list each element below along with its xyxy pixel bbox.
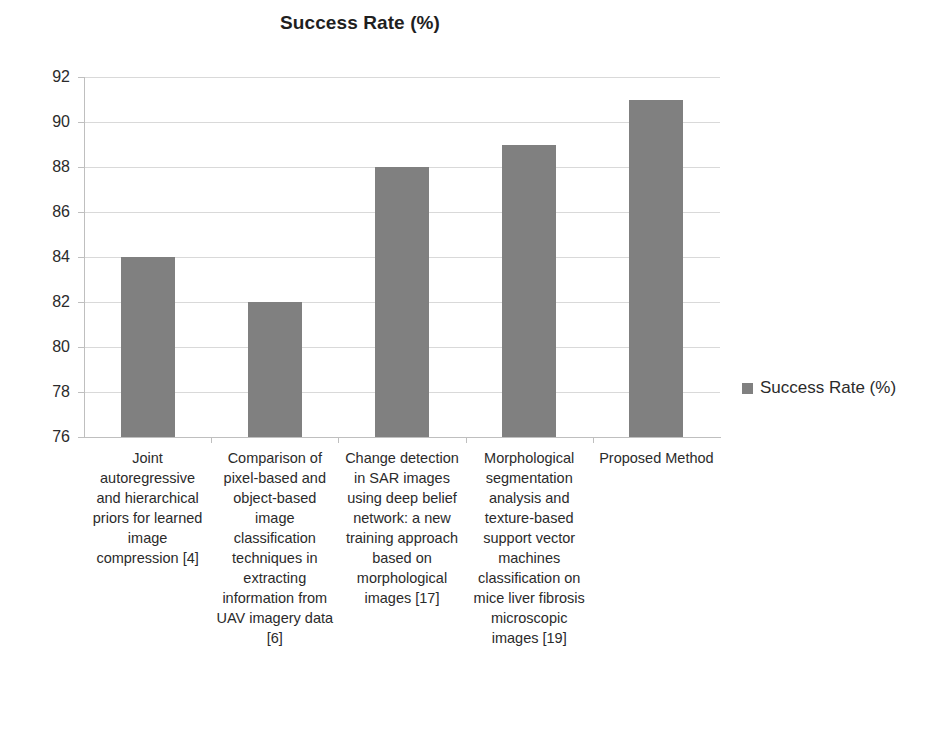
bar[interactable] xyxy=(248,302,302,437)
x-axis-separator xyxy=(593,437,594,443)
y-axis-tick-label: 92 xyxy=(28,68,70,86)
y-axis-tick-label: 88 xyxy=(28,158,70,176)
bar[interactable] xyxy=(629,100,683,438)
x-axis-category-label: Proposed Method xyxy=(597,448,716,468)
chart-title: Success Rate (%) xyxy=(0,12,720,34)
x-axis-category-label: Morphological segmentation analysis and … xyxy=(470,448,589,648)
bars-group xyxy=(84,77,720,437)
x-axis-category-label: Change detection in SAR images using dee… xyxy=(342,448,461,608)
x-axis-category-labels: Joint autoregressive and hierarchical pr… xyxy=(84,448,720,698)
y-axis-tick-label: 86 xyxy=(28,203,70,221)
x-axis-line xyxy=(84,437,721,438)
y-axis-tick-label: 78 xyxy=(28,383,70,401)
y-axis-tick-label: 76 xyxy=(28,428,70,446)
y-axis-labels: 929088868482807876 xyxy=(28,0,70,733)
x-axis-separator xyxy=(466,437,467,443)
y-axis-tick-label: 80 xyxy=(28,338,70,356)
legend-swatch-success-rate xyxy=(742,383,753,394)
y-axis-tick-label: 90 xyxy=(28,113,70,131)
legend-label-success-rate: Success Rate (%) xyxy=(760,378,896,398)
y-axis-tick-label: 82 xyxy=(28,293,70,311)
x-axis-separator xyxy=(338,437,339,443)
x-axis-category-label: Comparison of pixel-based and object-bas… xyxy=(215,448,334,648)
legend: Success Rate (%) xyxy=(742,378,896,398)
bar[interactable] xyxy=(121,257,175,437)
x-axis-category-label: Joint autoregressive and hierarchical pr… xyxy=(88,448,207,568)
bar[interactable] xyxy=(375,167,429,437)
y-axis-tick xyxy=(78,437,84,438)
chart-container: Success Rate (%) 929088868482807876 Join… xyxy=(0,0,930,733)
y-axis-tick-label: 84 xyxy=(28,248,70,266)
bar[interactable] xyxy=(502,145,556,438)
x-axis-separator xyxy=(211,437,212,443)
